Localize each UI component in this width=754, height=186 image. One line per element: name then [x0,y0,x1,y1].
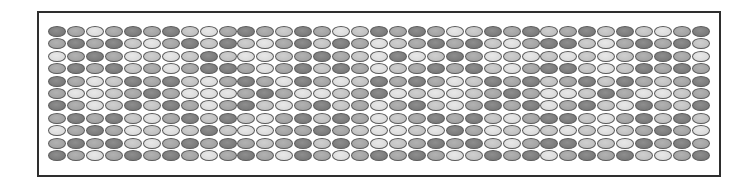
oval-icon [522,76,540,87]
oval-icon [559,100,577,111]
oval-icon [48,125,66,136]
oval-icon [181,38,199,49]
oval-icon [389,38,407,49]
oval-icon [256,76,274,87]
oval-icon [503,88,521,99]
oval-icon [105,38,123,49]
oval-icon [522,88,540,99]
oval-icon [67,138,85,149]
oval-icon [48,26,66,37]
oval-icon [162,125,180,136]
oval-icon [427,150,445,161]
oval-icon [143,150,161,161]
oval-icon [313,88,331,99]
oval-icon [654,113,672,124]
oval-icon [446,26,464,37]
oval-icon [219,138,237,149]
oval-icon [237,51,255,62]
oval-icon [86,51,104,62]
oval-icon [559,51,577,62]
oval-icon [692,88,710,99]
oval-icon [484,100,502,111]
oval-icon [67,100,85,111]
oval-icon [351,125,369,136]
oval-icon [162,51,180,62]
oval-icon [484,138,502,149]
oval-icon [200,63,218,74]
oval-icon [294,138,312,149]
oval-icon [256,113,274,124]
oval-icon [465,51,483,62]
oval-icon [200,138,218,149]
oval-icon [692,51,710,62]
oval-icon [143,88,161,99]
oval-icon [275,138,293,149]
oval-icon [503,51,521,62]
oval-icon [635,100,653,111]
oval-icon [597,150,615,161]
oval-icon [237,38,255,49]
oval-icon [313,51,331,62]
oval-icon [597,38,615,49]
oval-icon [522,100,540,111]
oval-icon [673,138,691,149]
oval-icon [692,150,710,161]
oval-icon [200,113,218,124]
oval-icon [370,138,388,149]
oval-icon [256,51,274,62]
oval-icon [578,125,596,136]
oval-icon [313,38,331,49]
oval-icon [86,138,104,149]
oval-icon [86,100,104,111]
oval-icon [673,100,691,111]
oval-icon [559,38,577,49]
oval-icon [124,125,142,136]
oval-icon [143,26,161,37]
oval-icon [294,150,312,161]
oval-icon [181,26,199,37]
oval-icon [143,76,161,87]
oval-icon [597,138,615,149]
oval-icon [484,26,502,37]
oval-icon [370,150,388,161]
oval-icon [124,138,142,149]
oval-icon [635,150,653,161]
oval-icon [143,138,161,149]
oval-icon [219,63,237,74]
oval-icon [143,125,161,136]
oval-icon [162,76,180,87]
oval-icon [427,76,445,87]
oval-icon [654,138,672,149]
oval-icon [654,100,672,111]
oval-icon [143,63,161,74]
oval-icon [313,138,331,149]
oval-icon [86,113,104,124]
oval-icon [503,100,521,111]
oval-icon [294,100,312,111]
oval-icon [389,51,407,62]
oval-icon [67,88,85,99]
oval-icon [654,51,672,62]
oval-icon [389,76,407,87]
oval-icon [540,51,558,62]
oval-icon [427,63,445,74]
oval-icon [446,51,464,62]
oval-icon [86,38,104,49]
oval-icon [370,88,388,99]
oval-icon [503,113,521,124]
oval-icon [427,26,445,37]
oval-icon [673,125,691,136]
oval-icon [597,63,615,74]
oval-icon [237,138,255,149]
oval-icon [503,26,521,37]
oval-icon [67,113,85,124]
oval-icon [124,63,142,74]
oval-icon [635,76,653,87]
oval-icon [597,76,615,87]
oval-icon [427,100,445,111]
oval-icon [616,138,634,149]
oval-icon [370,76,388,87]
oval-icon [294,63,312,74]
oval-icon [408,38,426,49]
oval-icon [294,76,312,87]
